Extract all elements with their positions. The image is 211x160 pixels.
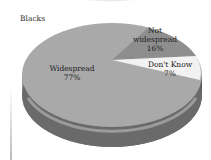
label-widespread: Widespread77% — [42, 64, 102, 82]
label-dont-know: Don't Know7% — [138, 60, 202, 78]
divider-line — [10, 88, 12, 160]
previous-pie-bottom — [65, 0, 155, 2]
pie-graphic — [0, 0, 211, 160]
chart-title: Blacks — [20, 14, 45, 23]
pie-chart: Blacks Widespread77% Notwidespread16% Do… — [0, 0, 211, 160]
label-not-widespread: Notwidespread16% — [125, 26, 185, 53]
